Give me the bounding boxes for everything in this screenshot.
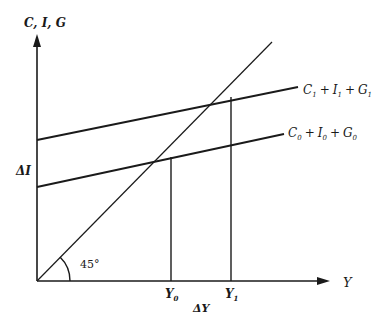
delta-i-label: ΔI: [15, 164, 31, 178]
angle-label: 45°: [80, 258, 100, 271]
lower-expenditure-line: [37, 134, 284, 187]
x-axis-arrow-icon: [317, 277, 330, 285]
angle-arc-icon: [60, 257, 70, 281]
y1-label: Υ1: [225, 287, 238, 303]
x-axis-label: Υ: [343, 275, 353, 290]
lower-line-label: C0+I0+G0: [288, 126, 358, 142]
y0-label: Υ0: [165, 287, 179, 303]
y-axis-arrow-icon: [33, 34, 41, 47]
keynesian-cross-diagram: C, I, G Υ ΔI 45° Υ0 Υ1 ΔΥ C1+I1+G1 C0+I0…: [0, 0, 380, 326]
y-axis-label: C, I, G: [24, 16, 66, 30]
upper-line-label: C1+I1+G1: [303, 83, 372, 99]
delta-y-label: ΔΥ: [192, 302, 211, 315]
upper-expenditure-line: [37, 87, 298, 140]
